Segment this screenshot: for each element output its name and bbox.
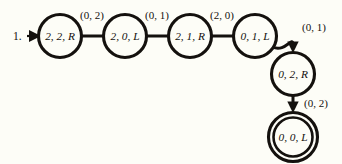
- edge-label-t3: (0, 1): [302, 21, 326, 34]
- edge-label-t2: (2, 0): [210, 9, 234, 22]
- state-nodes: 2, 2, R 2, 0, L 2, 1, R 0, 1, L 0, 2, R: [39, 15, 318, 162]
- state-label-s4: 0, 2, R: [278, 68, 308, 80]
- state-node-s2: 2, 1, R: [169, 15, 212, 58]
- state-label-s5: 0, 0, L: [278, 131, 307, 143]
- edge-label-t4: (0, 2): [304, 97, 328, 110]
- edge-label-t1: (0, 1): [145, 9, 169, 22]
- state-node-s5: 0, 0, L: [269, 113, 318, 162]
- state-label-s2: 2, 1, R: [175, 30, 205, 42]
- state-node-s4: 0, 2, R: [272, 53, 315, 96]
- edge-label-t0: (0, 2): [80, 9, 104, 22]
- state-node-s0: 2, 2, R: [39, 15, 82, 58]
- transition-edge-t4: [287, 95, 298, 113]
- state-node-s1: 2, 0, L: [104, 15, 147, 58]
- state-diagram-canvas: 2, 2, R 2, 0, L 2, 1, R 0, 1, L 0, 2, R: [0, 0, 342, 164]
- state-label-s3: 0, 1, L: [240, 30, 269, 42]
- item-number-label: 1.: [13, 30, 22, 43]
- state-node-s3: 0, 1, L: [234, 15, 277, 58]
- state-label-s0: 2, 2, R: [45, 30, 75, 42]
- state-diagram-figure: 2, 2, R 2, 0, L 2, 1, R 0, 1, L 0, 2, R: [0, 0, 342, 164]
- state-label-s1: 2, 0, L: [110, 30, 139, 42]
